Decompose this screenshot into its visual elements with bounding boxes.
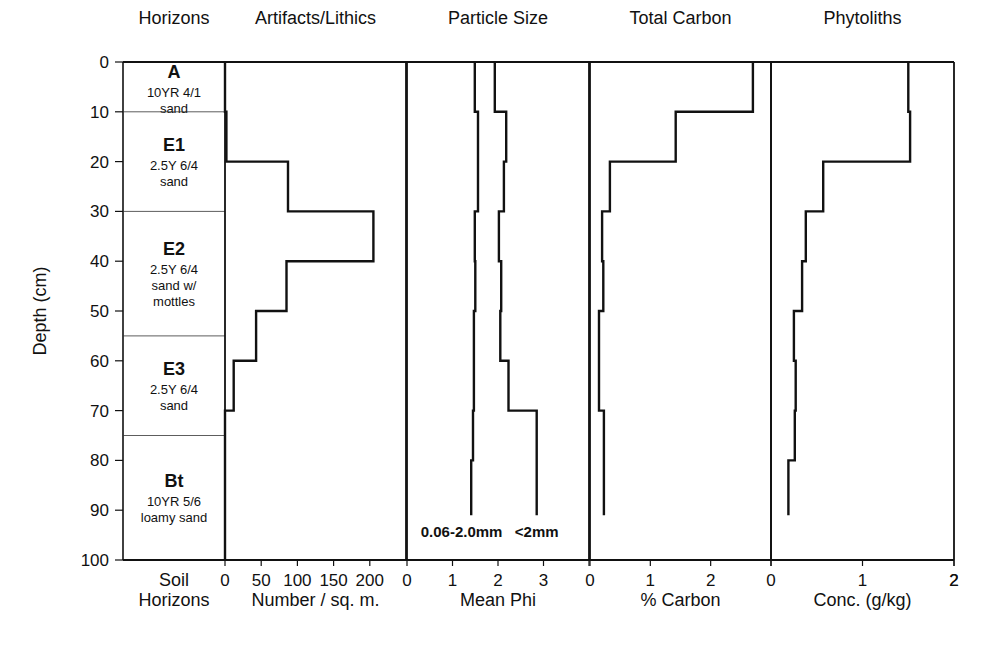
- y-tick-label: 90: [90, 501, 109, 520]
- x-tick-label: 0: [220, 571, 229, 590]
- horizon-description: sand: [160, 398, 188, 413]
- y-tick-label: 40: [90, 252, 109, 271]
- horizon-description: 2.5Y 6/4: [150, 382, 198, 397]
- series-line-particle: [471, 62, 478, 515]
- y-tick-label: 100: [81, 551, 109, 570]
- x-tick-label: 150: [319, 571, 347, 590]
- y-axis-label: Depth (cm): [30, 266, 50, 355]
- y-tick-label: 50: [90, 302, 109, 321]
- horizons-xlabel-2: Horizons: [138, 590, 209, 610]
- depth-axis: 0102030405060708090100Depth (cm): [30, 53, 123, 570]
- series-annotation: <2mm: [515, 523, 559, 540]
- horizons-title: Horizons: [138, 8, 209, 28]
- x-tick-label: 0: [402, 571, 411, 590]
- y-tick-label: 0: [100, 53, 109, 72]
- series-line-artifacts: [225, 62, 373, 560]
- x-tick-label: 2: [493, 571, 502, 590]
- soil-profile-chart: 0102030405060708090100Depth (cm) Horizon…: [0, 0, 992, 653]
- series-annotation: 0.06-2.0mm: [421, 523, 503, 540]
- y-tick-label: 60: [90, 352, 109, 371]
- x-tick-label: 1: [448, 571, 457, 590]
- panel-xlabel: Number / sq. m.: [251, 590, 379, 610]
- horizons-xlabel-1: Soil: [159, 570, 189, 590]
- panel-xlabel: % Carbon: [640, 590, 720, 610]
- horizon-name: E1: [163, 135, 185, 155]
- x-tick-label: 1: [646, 571, 655, 590]
- x-tick-label: 100: [283, 571, 311, 590]
- panel-title: Particle Size: [448, 8, 548, 28]
- horizon-description: sand w/: [152, 278, 197, 293]
- x-tick-label: 3: [539, 571, 548, 590]
- y-tick-label: 10: [90, 103, 109, 122]
- horizon-description: sand: [160, 101, 188, 116]
- series-line-particle: [495, 62, 537, 515]
- panel-particle: Particle Size0123Mean Phi0.06-2.0mm<2mm: [402, 8, 589, 610]
- horizon-description: 2.5Y 6/4: [150, 262, 198, 277]
- horizon-name: Bt: [165, 471, 184, 491]
- horizon-description: sand: [160, 174, 188, 189]
- y-tick-label: 30: [90, 202, 109, 221]
- x-tick-label: 50: [252, 571, 271, 590]
- panel-phytoliths: Phytoliths0122Conc. (g/kg): [766, 8, 958, 610]
- chart-frame: [123, 62, 954, 560]
- panel-xlabel: Conc. (g/kg): [813, 590, 911, 610]
- x-tick-label: 2: [949, 571, 958, 590]
- x-tick-label: 0: [585, 571, 594, 590]
- x-tick-label: 0: [766, 571, 775, 590]
- y-tick-label: 20: [90, 153, 109, 172]
- panel-title: Phytoliths: [823, 8, 901, 28]
- x-tick-label: 1: [858, 571, 867, 590]
- x-tick-label: 200: [356, 571, 384, 590]
- data-panels: Artifacts/Lithics050100150200Number / sq…: [220, 8, 958, 610]
- panel-xlabel: Mean Phi: [460, 590, 536, 610]
- panel-title: Artifacts/Lithics: [255, 8, 376, 28]
- y-tick-label: 70: [90, 402, 109, 421]
- panel-title: Total Carbon: [629, 8, 731, 28]
- y-tick-label: 80: [90, 451, 109, 470]
- horizon-description: 2.5Y 6/4: [150, 158, 198, 173]
- horizon-name: E2: [163, 239, 185, 259]
- horizons-panel: HorizonsA10YR 4/1sandE12.5Y 6/4sandE22.5…: [123, 8, 225, 610]
- panel-carbon: Total Carbon012% Carbon: [585, 8, 771, 610]
- series-line-carbon: [599, 62, 753, 515]
- series-line-phytoliths: [788, 62, 910, 515]
- horizon-description: 10YR 5/6: [147, 494, 201, 509]
- x-tick-label: 2: [706, 571, 715, 590]
- horizon-name: A: [168, 62, 181, 82]
- horizon-description: loamy sand: [141, 510, 207, 525]
- horizon-description: mottles: [153, 294, 195, 309]
- horizon-name: E3: [163, 359, 185, 379]
- horizon-description: 10YR 4/1: [147, 85, 201, 100]
- panel-artifacts: Artifacts/Lithics050100150200Number / sq…: [220, 8, 406, 610]
